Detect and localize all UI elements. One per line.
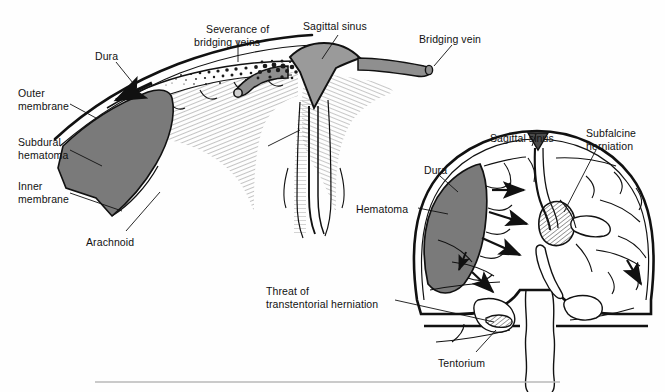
label-dura: Dura	[95, 50, 118, 63]
subfalcine-herniation-shape	[539, 202, 575, 246]
label-severance-of-bridging-veins: Severance of bridging veins	[194, 10, 269, 62]
brainstem-right-border	[552, 292, 555, 392]
label-tentorium: Tentorium	[438, 357, 485, 370]
label-inner-membrane: Inner membrane	[18, 180, 69, 206]
label-hematoma: Hematoma	[356, 203, 408, 216]
label-sagittal-sinus-right: Sagittal sinus	[490, 132, 554, 145]
label-subfalcine-herniation: Subfalcine herniation	[586, 127, 636, 153]
bridging-vein-shape	[358, 58, 431, 76]
label-outer-membrane: Outer membrane	[18, 87, 69, 113]
bridging-vein-cut-end	[425, 65, 432, 74]
brainstem-left-border	[525, 290, 528, 392]
label-subdural-hematoma: Subdural hematoma	[18, 136, 68, 162]
label-threat-of-transtentorial-herniation: Threat of transtentorial herniation	[266, 285, 378, 311]
label-bridging-vein: Bridging vein	[419, 33, 481, 46]
label-sagittal-sinus: Sagittal sinus	[303, 20, 367, 33]
severed-vein-lumen	[234, 89, 242, 97]
temporal-lobe-right	[564, 296, 602, 321]
figure-canvas: Severance of bridging veins Sagittal sin…	[0, 0, 665, 392]
label-dura-right: Dura	[424, 164, 447, 177]
label-arachnoid: Arachnoid	[86, 236, 134, 249]
